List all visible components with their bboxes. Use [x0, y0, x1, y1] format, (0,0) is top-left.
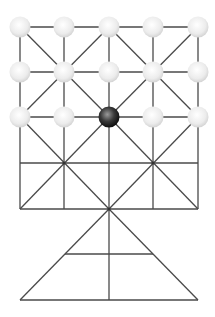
white-piece[interactable] [54, 107, 75, 128]
white-piece[interactable] [188, 17, 209, 38]
white-piece[interactable] [143, 107, 164, 128]
white-piece[interactable] [188, 107, 209, 128]
white-piece[interactable] [54, 62, 75, 83]
white-piece[interactable] [10, 107, 31, 128]
white-piece[interactable] [143, 62, 164, 83]
white-piece[interactable] [143, 17, 164, 38]
white-piece[interactable] [99, 62, 120, 83]
white-piece[interactable] [54, 17, 75, 38]
game-board[interactable] [0, 0, 215, 317]
white-piece[interactable] [10, 62, 31, 83]
white-piece[interactable] [99, 17, 120, 38]
white-piece[interactable] [188, 62, 209, 83]
intersection-dot [62, 161, 65, 164]
black-piece[interactable] [99, 107, 120, 128]
intersection-dot [151, 161, 154, 164]
intersection-dot [107, 207, 110, 210]
white-piece[interactable] [10, 17, 31, 38]
